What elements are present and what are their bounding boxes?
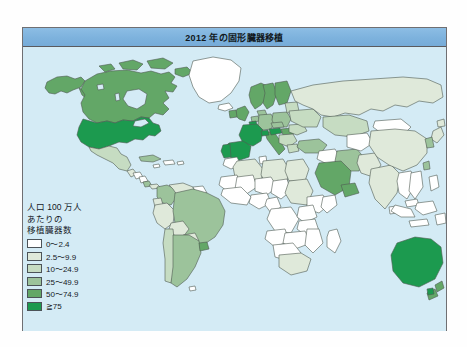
legend-label: 50〜74.9 [46,288,78,299]
country-canada-island-1 [119,60,143,70]
country-somalia [321,195,337,213]
legend-heading-line-2: あたりの [27,214,123,226]
country-mozambique [305,229,323,253]
legend-swatch [27,264,42,273]
country-puerto-rico [177,161,184,165]
legend-swatch [27,302,42,311]
legend-item: 25〜49.9 [27,275,123,287]
legend-heading: 人口 100 万人 あたりの 移植臓器数 [27,202,123,237]
legend-item: 0〜2.4 [27,238,123,250]
country-finland [275,81,291,105]
country-united-states [77,117,161,149]
country-central-asia [347,133,373,151]
country-jamaica [153,164,160,168]
country-argentina [171,235,201,287]
country-czechia [271,122,284,128]
country-cuba [139,155,161,162]
country-greenland [189,57,241,103]
legend-item: 2.5〜9.9 [27,250,123,262]
screenshot-root: 2012 年の固形臓器移植 [0,0,467,347]
legend-swatch [27,239,42,248]
legend-label: 2.5〜9.9 [46,251,76,262]
country-united-kingdom [235,106,249,121]
country-south-africa [279,253,311,275]
falkland-islands [189,286,196,291]
legend-label: 0〜2.4 [46,238,70,249]
country-switzerland [261,130,269,136]
map-legend: 人口 100 万人 あたりの 移植臓器数 0〜2.42.5〜9.910〜24.9… [27,202,123,313]
country-portugal [221,144,231,158]
country-egypt [285,159,309,181]
country-taiwan [423,161,430,170]
country-new-zealand-north [435,281,444,292]
country-india [369,165,401,209]
country-papua-new-guinea [435,213,446,225]
legend-label: 25〜49.9 [46,276,78,287]
country-canada-island-2 [147,58,173,69]
country-australia [391,237,443,287]
country-ireland [229,110,237,118]
country-indonesia-java [409,219,429,227]
country-indonesia-sumatra [391,205,415,217]
country-vietnam-laos [409,171,423,199]
country-philippines [429,175,439,191]
great-bear-lake [97,84,104,90]
country-alaska [45,76,85,94]
legend-swatch [27,277,42,286]
legend-item: 10〜24.9 [27,263,123,275]
legend-label: 10〜24.9 [46,263,78,274]
lake-winnipeg [115,93,120,101]
figure-title-bar: 2012 年の固形臓器移植 [23,28,446,47]
legend-swatch [27,289,42,298]
legend-heading-line-1: 人口 100 万人 [27,202,123,214]
country-hispaniola [163,160,175,165]
figure-panel: 2012 年の固形臓器移植 [22,27,447,331]
figure-title: 2012 年の固形臓器移植 [185,31,283,44]
country-tasmania [427,288,434,295]
legend-label: ≧75 [46,302,62,311]
legend-heading-line-3: 移植臓器数 [27,225,123,237]
country-japan-north [437,119,445,127]
legend-swatch [27,252,42,261]
country-iceland [218,103,233,111]
country-mexico [89,146,131,171]
country-uruguay [199,242,209,251]
legend-item: ≧75 [27,300,123,312]
legend-item-list: 0〜2.42.5〜9.910〜24.925〜49.950〜74.9≧75 [27,238,123,313]
country-yemen-oman [341,183,359,197]
country-greece [287,144,299,153]
country-madagascar [327,229,341,253]
country-austria [269,128,282,135]
country-indonesia-borneo [415,201,437,215]
legend-item: 50〜74.9 [27,288,123,300]
world-map-panel: 人口 100 万人 あたりの 移植臓器数 0〜2.42.5〜9.910〜24.9… [23,47,446,331]
